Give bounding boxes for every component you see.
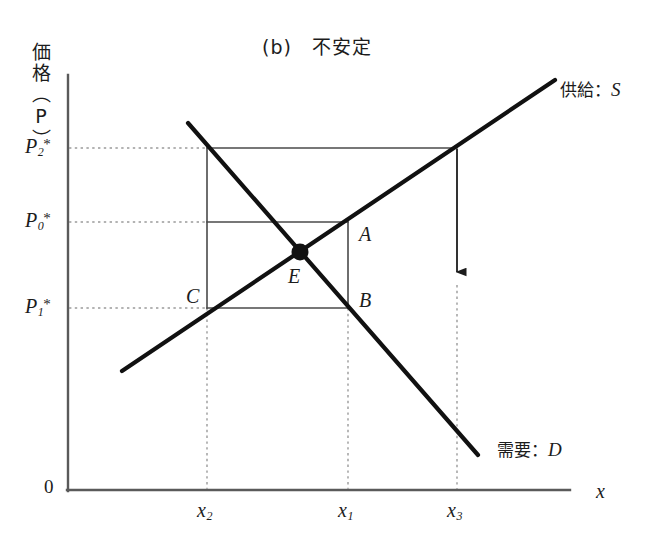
x-axis-title: x bbox=[596, 481, 605, 501]
cobweb-diagram-figure: (b) 不安定 価格（P） x 0 供給：S 需要：D P2* P0* P1* … bbox=[0, 0, 668, 545]
y-axis-title: 価格（P） bbox=[30, 42, 50, 150]
origin-label: 0 bbox=[44, 477, 54, 496]
demand-curve-label-text: 需要： bbox=[497, 440, 548, 460]
figure-title: (b) 不安定 bbox=[262, 38, 372, 57]
quantity-tick-x1-symbol: x bbox=[338, 499, 347, 521]
equilibrium-point-marker bbox=[292, 244, 309, 261]
quantity-tick-x2-subscript: 2 bbox=[206, 509, 212, 523]
quantity-tick-x1-subscript: 1 bbox=[347, 509, 353, 523]
price-tick-label-p0: P0* bbox=[25, 210, 51, 232]
point-label-e: E bbox=[288, 266, 300, 286]
price-tick-label-p2: P2* bbox=[25, 136, 51, 158]
point-label-b: B bbox=[359, 290, 371, 310]
supply-curve-label-text: 供給： bbox=[560, 80, 611, 100]
supply-curve-label: 供給：S bbox=[560, 80, 621, 99]
quantity-tick-label-x2: x2 bbox=[197, 500, 212, 522]
price-guide-lines bbox=[69, 148, 207, 308]
quantity-tick-x2-symbol: x bbox=[197, 499, 206, 521]
price-tick-p1-superscript: * bbox=[43, 296, 51, 312]
supply-curve-label-symbol: S bbox=[611, 79, 621, 100]
axes-group bbox=[67, 75, 570, 491]
price-tick-p1-symbol: P bbox=[25, 295, 37, 317]
quantity-tick-label-x3: x3 bbox=[447, 500, 462, 522]
price-tick-p2-superscript: * bbox=[43, 136, 51, 152]
point-label-a: A bbox=[359, 224, 371, 244]
price-tick-p0-symbol: P bbox=[25, 209, 37, 231]
demand-curve-label: 需要：D bbox=[497, 440, 562, 459]
quantity-tick-label-x1: x1 bbox=[338, 500, 353, 522]
quantity-tick-x3-symbol: x bbox=[447, 499, 456, 521]
demand-curve-label-symbol: D bbox=[548, 439, 562, 460]
point-label-c: C bbox=[186, 286, 199, 306]
price-tick-label-p1: P1* bbox=[25, 296, 51, 318]
quantity-tick-x3-subscript: 3 bbox=[456, 509, 462, 523]
price-tick-p0-superscript: * bbox=[43, 210, 51, 226]
demand-curve bbox=[188, 123, 478, 455]
price-tick-p2-symbol: P bbox=[25, 135, 37, 157]
